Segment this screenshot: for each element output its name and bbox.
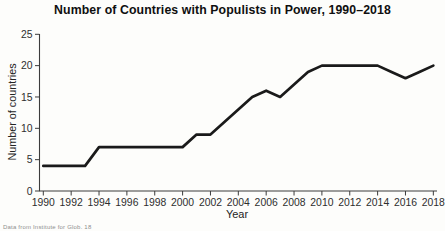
y-tick-label: 15	[21, 92, 33, 103]
x-tick-label: 2012	[338, 197, 361, 208]
x-tick-label: 2000	[171, 197, 194, 208]
x-tick-label: 2016	[394, 197, 417, 208]
populists-in-power-figure: Number of Countries with Populists in Po…	[0, 0, 445, 231]
y-tick-label: 25	[21, 29, 33, 40]
source-note: Data from Institute for Glob. 18	[3, 224, 91, 230]
y-tick-label: 0	[27, 186, 33, 197]
x-tick-label: 1998	[143, 197, 166, 208]
y-axis-title: Number of countries	[6, 62, 18, 162]
x-tick-label: 1992	[60, 197, 83, 208]
line-chart: 0510152025199019921994199619982000200220…	[0, 0, 445, 231]
x-tick-label: 2004	[227, 197, 250, 208]
x-tick-label: 2006	[255, 197, 278, 208]
x-tick-label: 2018	[422, 197, 445, 208]
x-tick-label: 1990	[32, 197, 55, 208]
y-tick-label: 20	[21, 60, 33, 71]
data-line-series	[43, 66, 433, 166]
x-tick-label: 1996	[115, 197, 138, 208]
x-axis-title: Year	[39, 208, 435, 220]
x-tick-label: 2008	[282, 197, 305, 208]
y-tick-label: 5	[27, 154, 33, 165]
x-tick-label: 1994	[87, 197, 110, 208]
x-tick-label: 2010	[310, 197, 333, 208]
x-tick-label: 2002	[199, 197, 222, 208]
x-tick-label: 2014	[366, 197, 389, 208]
y-tick-label: 10	[21, 123, 33, 134]
